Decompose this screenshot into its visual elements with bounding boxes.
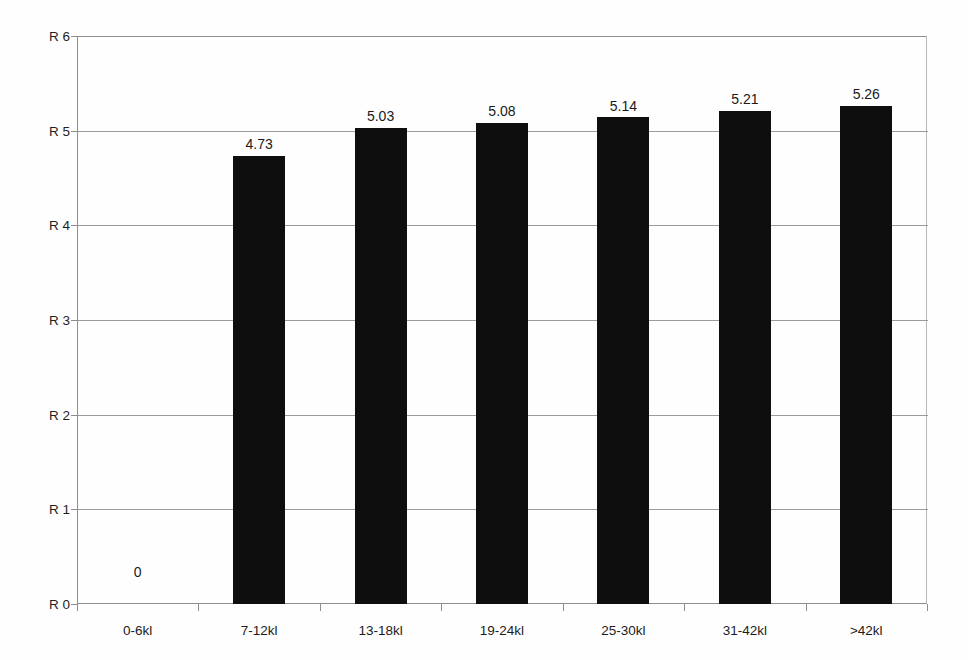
bar-value-0: 0 [134,564,142,580]
bar-4 [597,117,649,604]
bar-value-2: 5.03 [367,108,394,124]
y-axis-label-3: R 3 [30,313,70,328]
x-axis-label-5: 31-42kl [684,623,805,638]
bar-3 [476,123,528,604]
y-axis-label-2: R 2 [30,407,70,422]
bars-layer: 0 4.73 5.03 5.08 5.14 5.21 5.26 [77,36,927,604]
bar-1 [233,156,285,604]
bar-slot-6: 5.26 [806,36,927,604]
y-axis-label-0: R 0 [30,597,70,612]
bar-value-5: 5.21 [731,91,758,107]
y-axis-label-4: R 4 [30,218,70,233]
x-axis-label-2: 13-18kl [320,623,441,638]
bar-value-4: 5.14 [610,98,637,114]
y-axis-label-5: R 5 [30,123,70,138]
bar-slot-0: 0 [77,36,198,604]
bar-slot-5: 5.21 [684,36,805,604]
bar-slot-2: 5.03 [320,36,441,604]
x-axis-label-3: 19-24kl [441,623,562,638]
x-axis-tick-2 [320,604,321,611]
bar-chart: R 6 R 5 R 4 R 3 R 2 R 1 R 0 0 4.73 [0,0,968,660]
bar-slot-1: 4.73 [198,36,319,604]
y-axis-label-1: R 1 [30,502,70,517]
bar-value-1: 4.73 [246,136,273,152]
x-axis-tick-6 [806,604,807,611]
x-axis: 0-6kl 7-12kl 13-18kl 19-24kl 25-30kl 31-… [77,604,927,660]
bar-value-3: 5.08 [488,103,515,119]
x-axis-tick-5 [684,604,685,611]
y-axis-label-6: R 6 [30,29,70,44]
x-axis-tick-4 [563,604,564,611]
bar-value-6: 5.26 [853,86,880,102]
x-axis-label-1: 7-12kl [198,623,319,638]
bar-6 [840,106,892,604]
x-axis-tick-0 [77,604,78,611]
x-axis-tick-3 [441,604,442,611]
x-axis-tick-1 [198,604,199,611]
x-axis-label-0: 0-6kl [77,623,198,638]
bar-slot-4: 5.14 [563,36,684,604]
bar-slot-3: 5.08 [441,36,562,604]
bar-5 [719,111,771,604]
x-axis-label-4: 25-30kl [563,623,684,638]
x-axis-tick-7 [927,604,928,611]
x-axis-label-6: >42kl [806,623,927,638]
bar-2 [355,128,407,604]
